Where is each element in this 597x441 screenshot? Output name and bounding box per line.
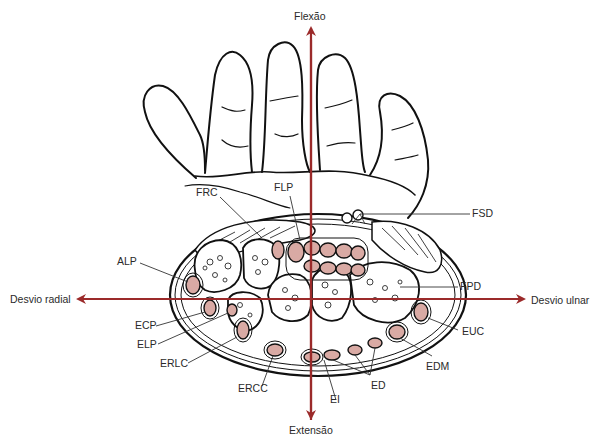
label-ercc: ERCC — [238, 383, 268, 394]
axis-label-radial-deviation: Desvio radial — [10, 294, 71, 305]
label-ei: EI — [330, 394, 340, 405]
label-fpd: FPD — [460, 281, 481, 292]
label-alp: ALP — [117, 256, 137, 267]
label-fsd: FSD — [472, 208, 493, 219]
label-ecp: ECP — [135, 320, 157, 331]
label-euc: EUC — [462, 326, 484, 337]
label-frc: FRC — [196, 187, 218, 198]
label-edm: EDM — [426, 361, 449, 372]
wrist-diagram: Flexão Extensão Desvio radial Desvio uln… — [0, 0, 597, 441]
axis-label-flexion: Flexão — [294, 11, 326, 22]
label-flp: FLP — [274, 182, 293, 193]
axis-label-ulnar-deviation: Desvio ulnar — [531, 295, 589, 306]
axis-label-extension: Extensão — [289, 425, 333, 436]
label-elp: ELP — [137, 339, 157, 350]
label-erlc: ERLC — [160, 358, 188, 369]
label-ed: ED — [371, 380, 386, 391]
